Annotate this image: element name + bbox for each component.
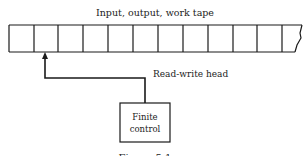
finite-control-label-line2: control: [130, 124, 161, 134]
arrow-up-icon: [42, 52, 48, 59]
tape: [9, 25, 302, 52]
read-write-head: [45, 57, 145, 103]
figure-caption: Figure 5.1: [119, 152, 172, 156]
finite-control-label-line1: Finite: [132, 112, 157, 122]
finite-control-box: [120, 103, 170, 142]
tape-torn-edge: [295, 25, 302, 52]
turing-machine-diagram: Input, output, work tape: [0, 0, 308, 156]
tape-label: Input, output, work tape: [96, 7, 214, 18]
head-label: Read-write head: [153, 69, 228, 79]
